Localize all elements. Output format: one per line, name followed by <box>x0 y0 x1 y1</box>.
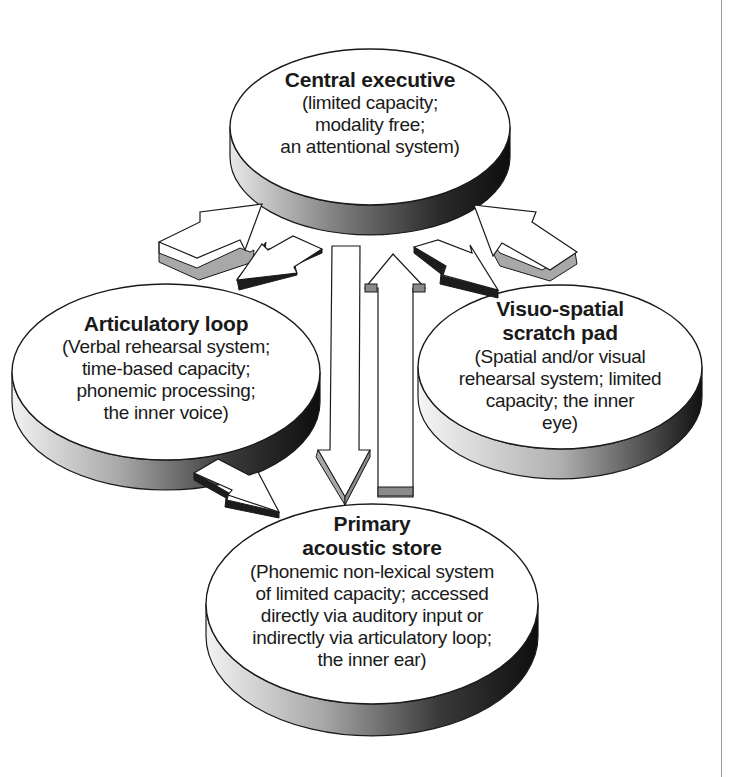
articulatory-loop-desc-1: (Verbal rehearsal system; <box>20 336 312 358</box>
central-executive-desc-1: (limited capacity; <box>240 92 500 114</box>
central-executive-desc-3: an attentional system) <box>240 136 500 158</box>
articulatory-loop-desc-4: the inner voice) <box>20 402 312 424</box>
primary-acoustic-store-desc-1: (Phonemic non-lexical system <box>215 561 529 583</box>
arrow-acoustic-to-executive <box>365 254 425 497</box>
articulatory-loop-title: Articulatory loop <box>20 312 312 336</box>
central-executive-desc-2: modality free; <box>240 114 500 136</box>
primary-acoustic-store-desc-4: indirectly via articulatory loop; <box>215 627 529 649</box>
primary-acoustic-store-title-2: acoustic store <box>215 536 529 560</box>
visuo-spatial-title-2: scratch pad <box>425 321 695 345</box>
central-executive-title: Central executive <box>240 68 500 92</box>
arrow-executive-to-acoustic <box>316 246 370 505</box>
visuo-spatial-title-1: Visuo-spatial <box>425 297 695 321</box>
primary-acoustic-store-title-1: Primary <box>215 512 529 536</box>
visuo-spatial-desc-4: eye) <box>425 412 695 434</box>
primary-acoustic-store-desc-3: directly via auditory input or <box>215 605 529 627</box>
arrow-visuo-to-executive <box>474 205 577 281</box>
arrow-executive-to-articulatory <box>237 236 322 290</box>
primary-acoustic-store-desc-5: the inner ear) <box>215 649 529 671</box>
visuo-spatial-desc-3: capacity; the inner <box>425 390 695 412</box>
articulatory-loop-desc-2: time-based capacity; <box>20 358 312 380</box>
page-edge-divider <box>721 0 722 777</box>
central-executive-label: Central executive (limited capacity; mod… <box>240 68 500 158</box>
visuo-spatial-label: Visuo-spatial scratch pad (Spatial and/o… <box>425 297 695 434</box>
visuo-spatial-desc-1: (Spatial and/or visual <box>425 346 695 368</box>
articulatory-loop-label: Articulatory loop (Verbal rehearsal syst… <box>20 312 312 424</box>
arrow-executive-to-visuo <box>414 240 498 298</box>
primary-acoustic-store-label: Primary acoustic store (Phonemic non-lex… <box>215 512 529 671</box>
articulatory-loop-desc-3: phonemic processing; <box>20 380 312 402</box>
visuo-spatial-desc-2: rehearsal system; limited <box>425 368 695 390</box>
primary-acoustic-store-desc-2: of limited capacity; accessed <box>215 583 529 605</box>
